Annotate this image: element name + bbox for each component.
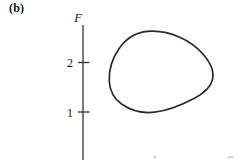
plot-area: F 2 1	[0, 0, 243, 160]
y-tick-label-2: 2	[67, 56, 73, 70]
y-axis-label: F	[73, 11, 82, 25]
cropped-x-tick-artifact-left	[154, 156, 156, 159]
closed-orbit-curve	[109, 31, 213, 112]
figure-panel-b: (b) F 2 1	[0, 0, 243, 160]
cropped-x-tick-artifact-right	[228, 156, 234, 158]
y-tick-label-1: 1	[67, 106, 73, 120]
